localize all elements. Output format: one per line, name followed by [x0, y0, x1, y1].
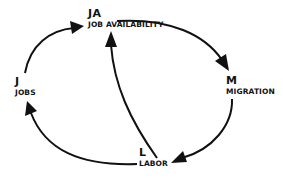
node-migration: M MIGRATION [226, 75, 275, 96]
causal-loop-diagram: JA JOB AVAILABILITY J JOBS M MIGRATION L… [0, 0, 283, 178]
node-jobs: J JOBS [15, 76, 36, 97]
arrowhead-icon [105, 31, 117, 47]
node-label: MIGRATION [226, 88, 275, 96]
arrowhead-icon [70, 21, 84, 34]
node-abbr: L [139, 147, 168, 158]
arrowhead-icon [215, 54, 229, 71]
edge-m-to-l [171, 99, 232, 163]
node-label: LABOR [139, 160, 168, 168]
node-abbr: J [15, 76, 36, 87]
edge-l-to-ja [105, 31, 157, 158]
node-label: JOBS [15, 89, 36, 97]
node-job-availability: JA JOB AVAILABILITY [88, 8, 164, 29]
arrowhead-icon [171, 151, 187, 163]
node-abbr: JA [88, 8, 164, 19]
node-label: JOB AVAILABILITY [88, 21, 164, 29]
node-abbr: M [226, 75, 275, 86]
node-labor: L LABOR [139, 147, 168, 168]
edge-l-to-j [25, 101, 137, 164]
edge-j-to-ja [25, 21, 84, 73]
